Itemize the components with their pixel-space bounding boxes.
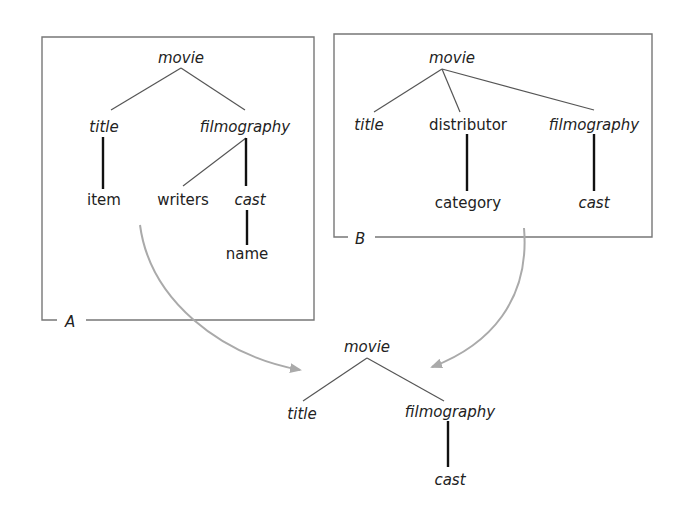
tree-a-group: A movie title filmography item writers c…: [42, 37, 314, 331]
node-filmography: filmography: [549, 116, 641, 134]
edge: [303, 358, 367, 401]
edge: [442, 69, 460, 112]
tree-b-group: B movie title distributor filmography ca…: [334, 34, 652, 248]
edge: [367, 358, 444, 401]
node-movie: movie: [158, 49, 204, 67]
node-writers: writers: [157, 191, 209, 209]
node-movie: movie: [429, 49, 475, 67]
node-filmography: filmography: [405, 403, 497, 421]
node-cast: cast: [578, 194, 610, 212]
tree-b-label: B: [355, 230, 365, 248]
node-title: title: [287, 405, 316, 423]
tree-a-label: A: [64, 313, 75, 331]
node-filmography: filmography: [200, 118, 292, 136]
node-distributor: distributor: [429, 116, 508, 134]
edge: [111, 68, 181, 110]
node-cast: cast: [434, 471, 466, 489]
edge: [442, 69, 594, 110]
node-item: item: [87, 191, 121, 209]
node-title: title: [354, 116, 383, 134]
diagram-svg: A movie title filmography item writers c…: [0, 0, 685, 517]
tree-a-frame: [42, 37, 314, 320]
node-movie: movie: [344, 338, 390, 356]
node-title: title: [89, 118, 118, 136]
merge-arrow-b: [432, 228, 525, 367]
diagram-canvas: A movie title filmography item writers c…: [0, 0, 685, 517]
node-category: category: [435, 194, 501, 212]
merge-arrow-a: [140, 225, 300, 370]
node-name: name: [226, 245, 269, 263]
edge: [374, 69, 442, 112]
edge: [183, 138, 246, 186]
node-cast: cast: [234, 191, 266, 209]
result-tree-group: movie title filmography cast: [287, 338, 496, 489]
edge: [181, 68, 245, 110]
